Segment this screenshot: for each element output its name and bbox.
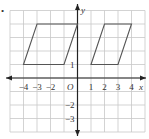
y-axis-arrow-down-icon: [75, 130, 80, 136]
y-axis-label: y: [80, 5, 85, 15]
y-axis-arrow-up-icon: [75, 4, 80, 10]
coordinate-diagram: • y x O −4−3−212341−2−3: [0, 0, 149, 139]
y-tick-label: −2: [65, 100, 75, 110]
y-tick-label: −3: [65, 114, 75, 124]
parallelogram-right: [91, 24, 132, 65]
origin-label: O: [67, 82, 74, 92]
x-tick-label: 4: [129, 82, 134, 92]
x-tick-label: 2: [102, 82, 107, 92]
x-axis-label: x: [138, 82, 143, 92]
y-tick-label: 1: [70, 60, 75, 70]
x-tick-label: 3: [116, 82, 121, 92]
x-tick-label: 1: [89, 82, 94, 92]
x-tick-label: −2: [46, 82, 56, 92]
x-axis-arrow-left-icon: [6, 76, 12, 81]
x-tick-label: −3: [32, 82, 42, 92]
x-tick-label: −4: [19, 82, 29, 92]
question-bullet: •: [1, 6, 4, 16]
